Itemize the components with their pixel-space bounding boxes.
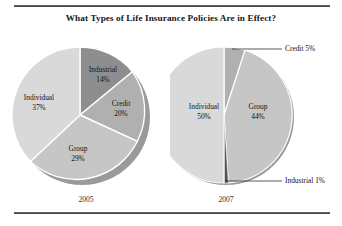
pie-2005-label-industrial-name: Industrial	[89, 65, 117, 74]
year-label-2005: 2005	[6, 195, 166, 204]
pie-chart-2007: Individual 50% Group 44% Credit 5% Indus…	[170, 36, 338, 186]
pie-2007-label-group-name: Group	[249, 102, 268, 111]
chart-page: What Types of Life Insurance Policies Ar…	[0, 0, 342, 226]
pie-2005-label-industrial-pct: 14%	[96, 75, 110, 84]
pie-2007-label-group-pct: 44%	[251, 112, 265, 121]
pie-2007-label-individual-pct: 50%	[197, 112, 211, 121]
pie-2005-label-credit-pct: 20%	[114, 109, 128, 118]
pie-2005-label-individual-pct: 37%	[32, 103, 46, 112]
pie-2005-label-group-pct: 29%	[71, 154, 85, 163]
pie-2007-label-individual-name: Individual	[189, 102, 219, 111]
pie-2005-label-credit-name: Credit	[112, 99, 131, 108]
year-label-2007: 2007	[170, 195, 282, 204]
page-title: What Types of Life Insurance Policies Ar…	[0, 13, 342, 23]
top-divider-rule	[14, 5, 330, 7]
pie-figure-2007: Individual 50% Group 44% Credit 5% Indus…	[170, 36, 338, 212]
pie-2005-label-individual-name: Individual	[24, 93, 54, 102]
pie-figure-2005: Industrial 14% Credit 20% Group 29% Indi…	[6, 36, 166, 212]
bottom-divider-rule	[14, 212, 330, 214]
pie-2007-callout-industrial: Industrial 1%	[285, 176, 325, 185]
pie-chart-2005: Industrial 14% Credit 20% Group 29% Indi…	[6, 36, 166, 186]
pie-2005-label-group-name: Group	[69, 144, 88, 153]
pie-2007-callout-credit: Credit 5%	[285, 44, 315, 53]
